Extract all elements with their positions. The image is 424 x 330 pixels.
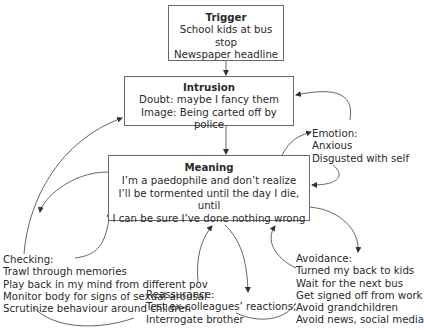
reassurance-label: Reassurance: Test ex-colleagues’ reactio…: [146, 289, 296, 326]
intrusion-line: Image: Being carted off by police: [125, 107, 293, 132]
trigger-line: School kids at bus stop: [169, 24, 283, 49]
meaning-line: I can be sure I’ve done nothing wrong: [109, 213, 309, 225]
emotion-title: Emotion:: [312, 128, 409, 140]
trigger-box: Trigger School kids at bus stop Newspape…: [168, 5, 284, 61]
meaning-box: Meaning I’m a paedophile and don’t reali…: [108, 155, 310, 221]
arrow-emotion-to-intrusion: [296, 92, 351, 120]
avoidance-label: Avoidance: Turned my back to kids Wait f…: [296, 253, 424, 327]
checking-line: Trawl through memories: [3, 266, 208, 278]
reassurance-line: Test ex-colleagues’ reactions;: [146, 301, 296, 313]
avoidance-line: Avoid grandchildren: [296, 302, 424, 314]
checking-title: Checking:: [3, 254, 208, 266]
emotion-line: Anxious: [312, 140, 409, 152]
avoidance-line: Wait for the next bus: [296, 278, 424, 290]
meaning-line: I’m a paedophile and don’t realize: [109, 175, 309, 187]
meaning-line: I’ll be tormented until the day I die, u…: [109, 188, 309, 213]
meaning-title: Meaning: [109, 162, 309, 174]
avoidance-title: Avoidance:: [296, 253, 424, 265]
arrow-meaning-to-emotion: [282, 132, 311, 155]
trigger-title: Trigger: [169, 12, 283, 24]
intrusion-title: Intrusion: [125, 82, 293, 94]
arrow-avoidance-to-meaning: [271, 226, 296, 268]
avoidance-line: Avoid news, social media: [296, 314, 424, 326]
avoidance-line: Get signed off from work: [296, 290, 424, 302]
arrow-meaning-to-avoidance: [310, 207, 358, 252]
intrusion-box: Intrusion Doubt: maybe I fancy them Imag…: [124, 76, 294, 126]
reassurance-line: Interrogate brother: [146, 314, 296, 326]
avoidance-line: Turned my back to kids: [296, 265, 424, 277]
arrow-checking-to-meaning: [75, 212, 110, 258]
arrow-meaning-to-checking: [40, 172, 108, 212]
arrow-emotion-to-meaning: [312, 165, 339, 185]
emotion-line: Disgusted with self: [312, 153, 409, 165]
arrow-meaning-to-reassurance: [225, 225, 248, 292]
emotion-label: Emotion: Anxious Disgusted with self: [312, 128, 409, 165]
trigger-line: Newspaper headline: [169, 49, 283, 61]
intrusion-line: Doubt: maybe I fancy them: [125, 94, 293, 106]
reassurance-title: Reassurance:: [146, 289, 296, 301]
